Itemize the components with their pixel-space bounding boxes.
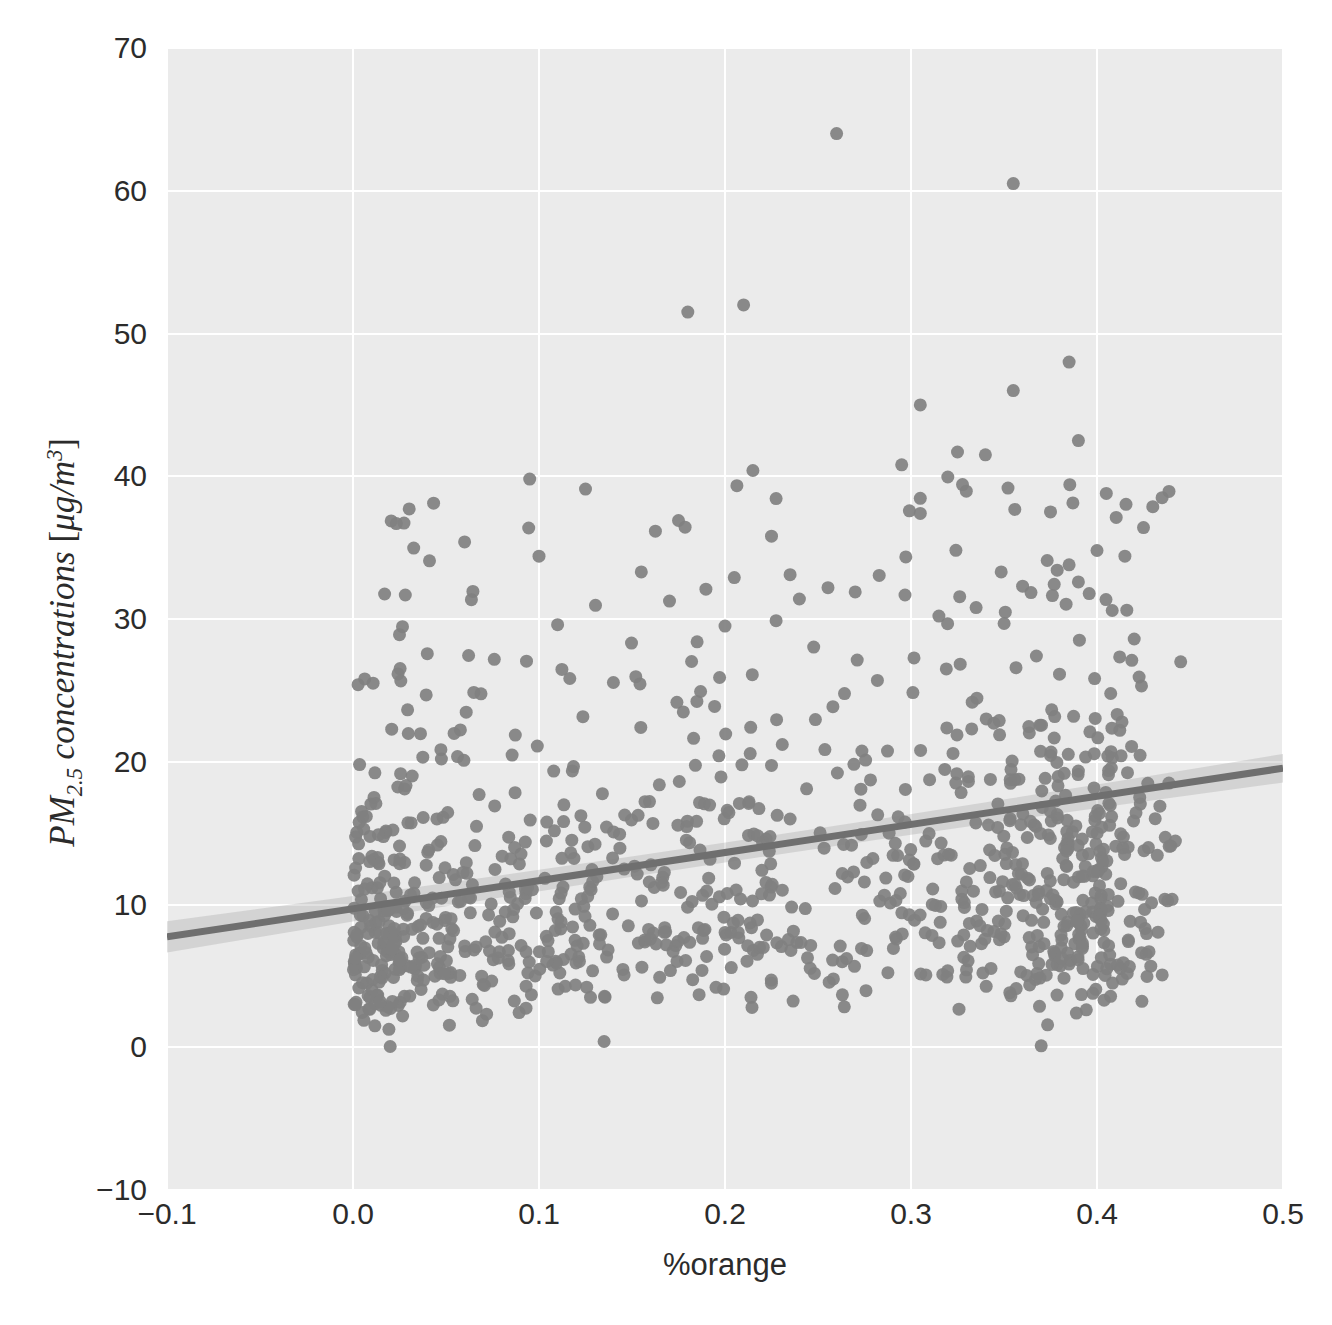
- y-axis-tick-label: 50: [114, 319, 147, 349]
- y-axis-tick-label: 20: [114, 747, 147, 777]
- x-axis-tick-label: 0.1: [518, 1199, 560, 1229]
- scatter-plot-series: [167, 48, 1283, 1190]
- figure-canvas: 706050403020100−10 −0.10.00.10.20.30.40.…: [0, 0, 1332, 1325]
- x-axis-tick-label: 0.4: [1076, 1199, 1118, 1229]
- y-axis-tick-label: 10: [114, 890, 147, 920]
- x-axis-tick-label: 0.5: [1262, 1199, 1304, 1229]
- y-axis-tick-label: 70: [114, 33, 147, 63]
- plot-area: [167, 48, 1283, 1190]
- x-axis-title: %orange: [663, 1247, 787, 1283]
- y-axis-tick-label: 60: [114, 176, 147, 206]
- x-axis-tick-label: 0.3: [890, 1199, 932, 1229]
- x-axis-tick-label: −0.1: [137, 1199, 196, 1229]
- x-axis-tick-label: 0.2: [704, 1199, 746, 1229]
- y-axis-tick-label: 40: [114, 461, 147, 491]
- x-axis-tick-label: 0.0: [332, 1199, 374, 1229]
- y-axis-tick-label: 0: [130, 1032, 147, 1062]
- data-points: [347, 127, 1187, 1053]
- y-axis-title: PM2.5 concentrations [μg/m3]: [42, 332, 89, 952]
- y-axis-tick-label: 30: [114, 604, 147, 634]
